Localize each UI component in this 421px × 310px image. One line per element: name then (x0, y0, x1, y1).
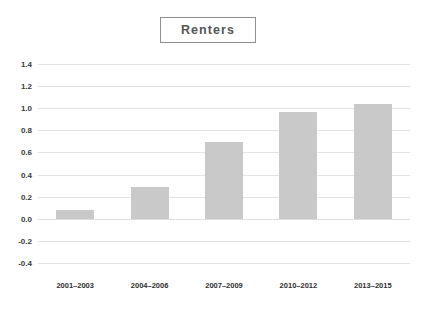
y-axis-tick-label: -0.2 (6, 236, 32, 245)
bar-slot (38, 64, 112, 263)
y-axis-tick-label: 1.4 (6, 60, 32, 69)
y-axis-tick-label: 0.4 (6, 170, 32, 179)
plot-area (38, 64, 410, 263)
x-axis-tick-label: 2013–2015 (354, 281, 392, 290)
bar-slot (261, 64, 335, 263)
bar[interactable] (205, 142, 243, 218)
bar-chart: Renters 1.41.21.00.80.60.40.20.0-0.2-0.4… (0, 0, 421, 310)
y-axis-tick-label: 0.0 (6, 214, 32, 223)
bar[interactable] (354, 104, 392, 219)
bar-slot (112, 64, 186, 263)
x-axis-tick-label: 2007–2009 (205, 281, 243, 290)
chart-title-box: Renters (160, 17, 256, 43)
x-axis-tick-label: 2001–2003 (56, 281, 94, 290)
gridline (38, 263, 410, 264)
y-axis-tick-label: -0.4 (6, 259, 32, 268)
bar-slot (187, 64, 261, 263)
y-axis-tick-label: 0.2 (6, 192, 32, 201)
y-axis-tick-label: 0.6 (6, 148, 32, 157)
bar[interactable] (279, 112, 317, 219)
bar[interactable] (131, 187, 169, 219)
y-axis-tick-label: 1.2 (6, 82, 32, 91)
page-title: Renters (181, 23, 235, 37)
x-axis-tick-label: 2010–2012 (280, 281, 318, 290)
bar-slot (336, 64, 410, 263)
y-axis-tick-label: 0.8 (6, 126, 32, 135)
x-axis-tick-label: 2004–2006 (131, 281, 169, 290)
bar[interactable] (56, 210, 94, 219)
y-axis-tick-label: 1.0 (6, 104, 32, 113)
